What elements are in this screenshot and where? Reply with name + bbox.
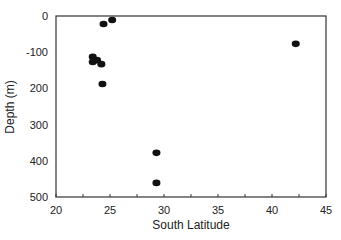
y-axis-tick-labels: 0-100200300400500 xyxy=(26,10,48,203)
data-point xyxy=(152,180,160,187)
data-point xyxy=(97,61,105,68)
x-tick-label: 45 xyxy=(320,204,332,216)
x-tick-label: 20 xyxy=(50,204,62,216)
data-point xyxy=(152,150,160,157)
x-axis-title: South Latitude xyxy=(152,218,230,232)
data-points xyxy=(89,17,300,187)
y-tick-label: 200 xyxy=(30,82,48,94)
y-tick-label: 0 xyxy=(42,10,48,22)
x-axis-tick-labels: 202530354045 xyxy=(50,204,332,216)
data-point xyxy=(292,41,300,48)
y-tick-label: 500 xyxy=(30,191,48,203)
data-point xyxy=(98,81,106,88)
y-tick-label: 400 xyxy=(30,155,48,167)
x-tick-label: 25 xyxy=(104,204,116,216)
plot-border xyxy=(56,16,326,197)
data-point xyxy=(100,21,108,28)
x-tick-label: 40 xyxy=(266,204,278,216)
plot-frame xyxy=(56,16,326,197)
data-point xyxy=(108,17,116,24)
y-axis-title: Depth (m) xyxy=(3,80,17,133)
data-point xyxy=(89,59,97,66)
x-tick-label: 35 xyxy=(212,204,224,216)
y-tick-label: -100 xyxy=(26,46,48,58)
y-tick-label: 300 xyxy=(30,119,48,131)
scatter-chart: 202530354045 0-100200300400500 South Lat… xyxy=(0,0,341,240)
x-tick-label: 30 xyxy=(158,204,170,216)
